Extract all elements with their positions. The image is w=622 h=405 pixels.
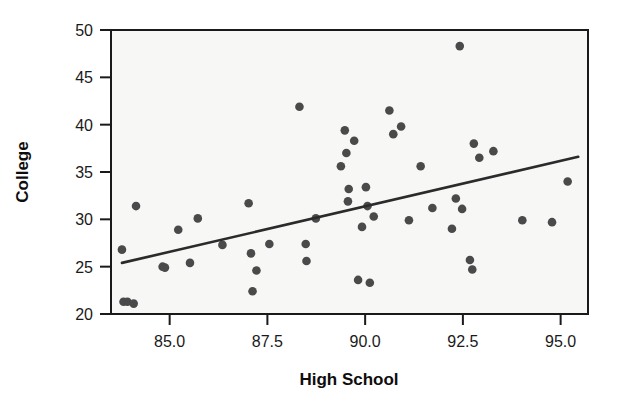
data-point [265,240,274,249]
scatter-plot-figure: 85.087.590.092.595.0 20253035404550 High… [0,0,622,405]
data-point [342,149,351,158]
data-point [244,199,253,208]
data-point [252,266,261,275]
data-point [295,102,304,111]
x-axis-title: High School [299,370,398,389]
y-tick-label: 40 [75,117,93,134]
data-point [362,183,371,192]
data-point [366,278,375,287]
data-point [341,126,350,135]
x-tick-label: 92.5 [447,333,478,350]
chart-canvas: 85.087.590.092.595.0 20253035404550 High… [0,0,622,405]
data-point [416,162,425,171]
data-point [344,185,353,194]
y-tick-label: 20 [75,306,93,323]
data-point [301,240,310,249]
data-point [466,256,475,265]
data-point [385,106,394,115]
x-tick-label: 95.0 [545,333,576,350]
y-tick-label: 35 [75,164,93,181]
data-point [470,139,479,148]
data-point [563,177,572,186]
x-tick-label: 90.0 [350,333,381,350]
data-point [193,214,202,223]
data-point [489,147,498,156]
data-point [248,287,257,296]
x-tick-label: 87.5 [252,333,283,350]
y-tick-label: 25 [75,259,93,276]
data-point [118,245,127,254]
data-point [350,136,359,145]
data-point [369,212,378,221]
data-point [218,241,227,250]
y-tick-label: 30 [75,211,93,228]
data-point [132,202,141,211]
data-point [397,122,406,131]
data-point [129,299,138,308]
data-point [405,216,414,225]
y-axis-title: College [13,141,32,202]
data-point [302,257,311,266]
data-point [358,223,367,232]
data-point [161,263,170,272]
data-point [458,205,467,214]
data-point [448,225,457,234]
data-point [247,249,256,258]
data-point [186,259,195,268]
data-point [344,197,353,206]
data-point [389,130,398,139]
data-point [337,162,346,171]
data-point [468,265,477,274]
data-point [548,218,557,227]
data-point [354,276,363,285]
data-point [455,42,464,51]
data-point [518,216,527,225]
data-point [452,194,461,203]
data-point [475,154,484,163]
y-tick-label: 45 [75,69,93,86]
data-point [174,225,183,234]
y-tick-label: 50 [75,22,93,39]
data-point [428,204,437,213]
x-tick-label: 85.0 [154,333,185,350]
